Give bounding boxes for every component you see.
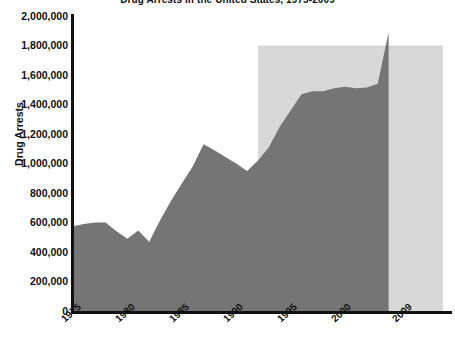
chart-container: Drug Arrests in the United States, 1975-… bbox=[0, 0, 455, 349]
plot-area bbox=[0, 0, 455, 349]
